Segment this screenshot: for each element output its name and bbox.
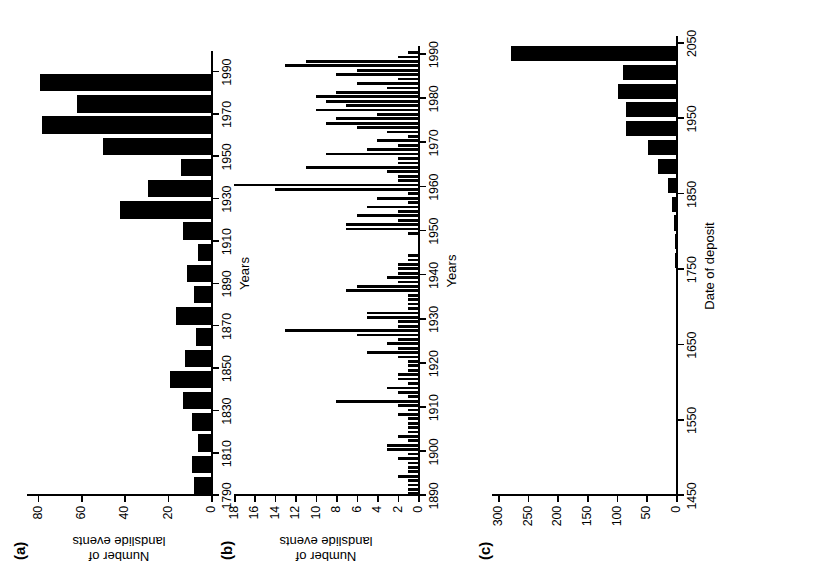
x-axis-line xyxy=(676,36,678,496)
bar xyxy=(408,417,418,420)
y-tick xyxy=(316,496,318,502)
bar xyxy=(408,440,418,443)
y-axis-title-line-0: Number of xyxy=(72,548,165,563)
bar xyxy=(408,232,418,235)
y-tick xyxy=(587,496,589,502)
bar xyxy=(194,477,211,494)
bar xyxy=(326,122,418,125)
bar xyxy=(187,265,211,282)
y-tick xyxy=(528,496,530,502)
y-tick xyxy=(234,496,236,502)
bar xyxy=(408,365,418,368)
bar xyxy=(285,65,418,68)
bar xyxy=(398,157,418,160)
bar xyxy=(367,351,418,354)
bar xyxy=(387,131,418,134)
bar xyxy=(398,325,418,328)
bar xyxy=(194,286,211,303)
y-tick-label: 0 xyxy=(412,506,425,513)
y-tick-label: 0 xyxy=(670,506,683,513)
bar xyxy=(398,457,418,460)
bar xyxy=(408,135,418,138)
bar xyxy=(398,413,418,416)
bar xyxy=(377,197,418,200)
bar xyxy=(408,488,418,491)
bar xyxy=(357,126,418,129)
bar xyxy=(198,244,211,261)
x-tick-label: 2050 xyxy=(686,30,699,57)
x-axis-line xyxy=(418,46,420,496)
bar xyxy=(408,254,418,257)
bar xyxy=(408,395,418,398)
figure-root: (a) 179018101830185018701890191019301950… xyxy=(0,0,821,580)
bar xyxy=(357,285,418,288)
bar xyxy=(306,166,418,169)
bar xyxy=(408,360,418,363)
bar xyxy=(367,148,418,151)
y-axis-line xyxy=(492,494,678,496)
bar xyxy=(387,170,418,173)
bar xyxy=(357,82,418,85)
bar xyxy=(408,201,418,204)
panel-b-x-axis-title: Years xyxy=(445,255,460,288)
bar xyxy=(176,307,211,324)
x-tick-label: 1910 xyxy=(428,394,441,421)
x-tick-label: 1550 xyxy=(686,407,699,434)
x-tick-label: 1650 xyxy=(686,332,699,359)
y-tick xyxy=(377,496,379,502)
y-axis-title-line-1: landslide events xyxy=(72,533,165,548)
bar xyxy=(398,404,418,407)
bar xyxy=(357,334,418,337)
bar xyxy=(408,462,418,465)
bar xyxy=(408,51,418,54)
bar xyxy=(346,223,418,226)
x-tick-label: 1890 xyxy=(428,482,441,509)
bar xyxy=(77,95,211,112)
y-axis-title-line-1: landslide events xyxy=(279,533,372,548)
y-tick-label: 18 xyxy=(228,506,241,520)
bar xyxy=(148,180,211,197)
bar xyxy=(377,113,418,116)
y-tick xyxy=(254,496,256,502)
bar xyxy=(398,281,418,284)
bar xyxy=(181,159,211,176)
bar xyxy=(398,179,418,182)
x-tick xyxy=(420,274,426,276)
y-tick-label: 4 xyxy=(371,506,384,513)
bar xyxy=(398,373,418,376)
y-tick-label: 2 xyxy=(391,506,404,513)
bar xyxy=(367,206,418,209)
x-tick xyxy=(420,406,426,408)
y-tick-label: 20 xyxy=(161,506,174,520)
bar xyxy=(336,400,418,403)
bar xyxy=(387,87,418,90)
bar xyxy=(387,276,418,279)
bar xyxy=(658,159,676,174)
y-tick-label: 16 xyxy=(248,506,261,520)
y-tick-label: 300 xyxy=(492,506,505,526)
bar xyxy=(398,320,418,323)
bar xyxy=(357,69,418,72)
bar xyxy=(192,413,211,430)
bar xyxy=(398,378,418,381)
y-tick xyxy=(81,496,83,502)
bar xyxy=(398,356,418,359)
x-tick-label: 1750 xyxy=(686,256,699,283)
bar xyxy=(398,219,418,222)
bar xyxy=(387,387,418,390)
bar xyxy=(398,391,418,394)
bar xyxy=(198,434,211,451)
y-tick xyxy=(498,496,500,502)
bar xyxy=(408,409,418,412)
y-tick xyxy=(557,496,559,502)
y-tick xyxy=(124,496,126,502)
bar xyxy=(408,303,418,306)
bar xyxy=(346,228,418,231)
y-axis-title-line-0: Number of xyxy=(279,548,372,563)
bar xyxy=(398,347,418,350)
x-tick xyxy=(678,268,684,270)
bar xyxy=(398,338,418,341)
bar xyxy=(377,140,418,143)
panel-b-y-axis-title: Number oflandslide events xyxy=(279,533,372,562)
bar xyxy=(398,78,418,81)
